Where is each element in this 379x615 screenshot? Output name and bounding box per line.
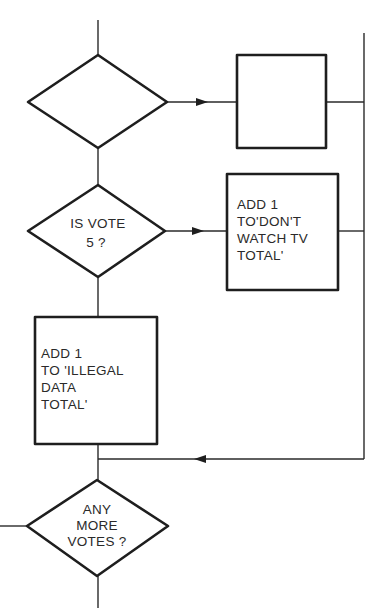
- arrow-right-icon: [192, 227, 204, 235]
- arrow-right-icon: [196, 98, 208, 106]
- process-label-line: ADD 1: [237, 197, 278, 212]
- decision-label-line: IS VOTE: [70, 216, 125, 231]
- process-label-line: WATCH TV: [237, 231, 308, 246]
- decision-label-line: 5 ?: [86, 235, 106, 250]
- decision-label-line: ANY: [83, 502, 112, 517]
- process-label-line: TOTAL': [41, 397, 88, 412]
- flowchart-canvas: IS VOTE 5 ? ADD 1 TO'DON'T WATCH TV TOTA…: [0, 0, 379, 615]
- process-box-dont-watch-tv: ADD 1 TO'DON'T WATCH TV TOTAL': [227, 174, 338, 290]
- decision-diamond-is-vote-5: IS VOTE 5 ?: [28, 185, 165, 277]
- arrow-left-icon: [194, 455, 206, 463]
- decision-label-line: MORE: [76, 518, 118, 533]
- process-label-line: TO'DON'T: [237, 214, 301, 229]
- process-label-line: ADD 1: [41, 346, 82, 361]
- process-label-line: TO 'ILLEGAL: [41, 363, 124, 378]
- process-box-illegal-data: ADD 1 TO 'ILLEGAL DATA TOTAL': [35, 317, 157, 444]
- decision-diamond-any-more-votes: ANY MORE VOTES ?: [27, 480, 168, 576]
- decision-diamond-1: [28, 55, 167, 148]
- process-label-line: TOTAL': [237, 248, 284, 263]
- process-box-1: [237, 55, 326, 148]
- decision-label-line: VOTES ?: [67, 534, 126, 549]
- process-label-line: DATA: [41, 380, 76, 395]
